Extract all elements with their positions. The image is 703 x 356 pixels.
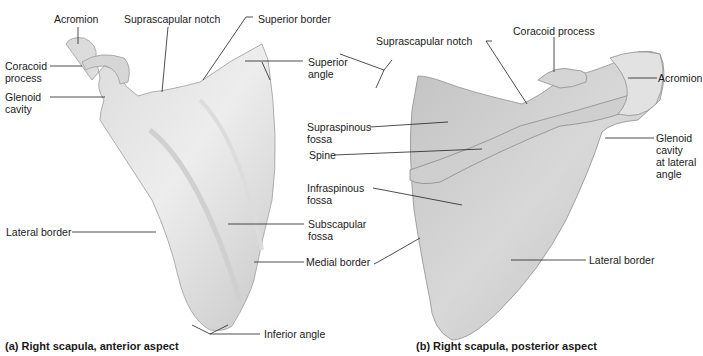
label-glenoid-cavity-a: Glenoidcavity	[5, 91, 41, 115]
label-medial-border-a: Medial border	[306, 256, 370, 268]
label-suprascapular-notch-b: Suprascapular notch	[376, 35, 472, 47]
caption-panel-b: (b) Right scapula, posterior aspect	[416, 340, 597, 352]
label-infraspinous-fossa-b: Infraspinousfossa	[307, 182, 364, 206]
label-subscapular-fossa-a: Subscapularfossa	[308, 218, 366, 242]
label-inferior-angle-a: Inferior angle	[264, 328, 325, 340]
label-superior-border-a: Superior border	[258, 13, 331, 25]
label-superior-angle-a: Superiorangle	[308, 56, 348, 80]
scapula-illustrations	[0, 0, 703, 356]
label-coracoid-process-a: Coracoidprocess	[5, 60, 47, 84]
label-glenoid-cavity-b: Glenoidcavityat lateralangle	[656, 132, 696, 180]
label-supraspinous-fossa-b: Supraspinousfossa	[307, 121, 371, 145]
anterior-scapula-bone	[66, 38, 275, 331]
label-coracoid-process-b: Coracoid process	[513, 25, 595, 37]
posterior-scapula-bone	[410, 51, 664, 340]
label-acromion-b: Acromion	[658, 72, 702, 84]
label-suprascapular-notch-a: Suprascapular notch	[124, 13, 220, 25]
caption-panel-a: (a) Right scapula, anterior aspect	[5, 340, 179, 352]
label-lateral-border-a: Lateral border	[6, 226, 71, 238]
scapula-figure: Acromion Suprascapular notch Superior bo…	[0, 0, 703, 356]
label-spine-b: Spine	[309, 149, 336, 161]
label-acromion-a: Acromion	[54, 13, 98, 25]
label-lateral-border-b: Lateral border	[589, 254, 654, 266]
